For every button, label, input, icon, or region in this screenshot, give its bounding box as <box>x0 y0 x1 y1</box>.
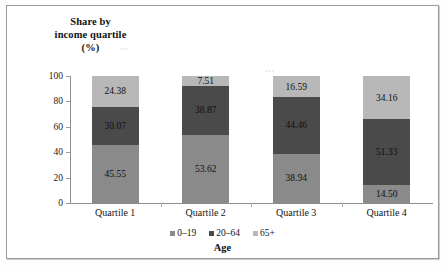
plot-area: 24.3830.0745.557.5138.8753.6216.5944.463… <box>70 76 432 203</box>
stacked-bar[interactable]: 24.3830.0745.55 <box>92 76 139 203</box>
bar-segment[interactable]: 24.38 <box>92 76 139 107</box>
legend-item-65plus[interactable]: 65+ <box>253 228 275 238</box>
legend-label: 0–19 <box>177 228 196 238</box>
y-axis-tick-label: 40 <box>29 148 63 157</box>
bar-segment-value-label: 30.07 <box>92 121 139 131</box>
scan-artifact: ••• <box>265 66 274 76</box>
bar-segment-value-label: 34.16 <box>363 93 410 103</box>
legend-swatch-icon <box>209 231 214 236</box>
legend-item-20-64[interactable]: 20–64 <box>209 228 240 238</box>
y-axis-tick-label: 80 <box>29 97 63 106</box>
bar-segment[interactable]: 38.87 <box>182 86 229 135</box>
legend-item-0-19[interactable]: 0–19 <box>170 228 196 238</box>
x-axis-category-label: Quartile 2 <box>161 207 251 219</box>
bar-segment-value-label: 53.62 <box>182 164 229 174</box>
bar-segment-value-label: 38.87 <box>182 105 229 115</box>
x-axis-category-label: Quartile 3 <box>251 207 341 219</box>
bar-segment[interactable]: 53.62 <box>182 135 229 203</box>
x-axis-category-label: Quartile 4 <box>342 207 432 219</box>
bar-segment[interactable]: 45.55 <box>92 145 139 203</box>
y-axis-tick-label: 0 <box>29 199 63 208</box>
bar-segment[interactable]: 51.33 <box>363 119 410 184</box>
x-axis-category-label: Quartile 1 <box>70 207 160 219</box>
legend-swatch-icon <box>253 231 258 236</box>
chart-title-line-3: (%) <box>23 41 158 54</box>
chart-frame: ••• ••• Share by income quartile (%) 100… <box>6 5 439 259</box>
bar-segment[interactable]: 34.16 <box>363 76 410 119</box>
stacked-bar[interactable]: 16.5944.4638.94 <box>273 76 320 203</box>
chart-title: Share by income quartile (%) <box>23 15 158 54</box>
chart-legend: 0–1920–6465+ <box>7 228 438 238</box>
legend-label: 20–64 <box>216 228 240 238</box>
bar-segment[interactable]: 14.50 <box>363 185 410 203</box>
stacked-bar[interactable]: 34.1651.3314.50 <box>363 76 410 203</box>
stacked-bar[interactable]: 7.5138.8753.62 <box>182 76 229 203</box>
x-axis-title: Age <box>7 242 438 253</box>
bar-segment[interactable]: 7.51 <box>182 76 229 86</box>
bar-segment[interactable]: 38.94 <box>273 154 320 203</box>
legend-label: 65+ <box>260 228 275 238</box>
bar-segment[interactable]: 30.07 <box>92 107 139 145</box>
scanned-page: ••• ••• Share by income quartile (%) 100… <box>0 0 448 270</box>
bar-segment-value-label: 7.51 <box>182 76 229 86</box>
bar-segment-value-label: 44.46 <box>273 120 320 130</box>
y-axis-labels: 100806040200 <box>25 76 63 204</box>
bar-segment-value-label: 24.38 <box>92 86 139 96</box>
chart-title-line-2: income quartile <box>23 28 158 41</box>
bar-segment-value-label: 16.59 <box>273 82 320 92</box>
chart-title-line-1: Share by <box>23 15 158 28</box>
y-axis-tick-label: 20 <box>29 173 63 182</box>
bar-segment[interactable]: 16.59 <box>273 76 320 97</box>
y-axis-tick-label: 100 <box>29 72 63 81</box>
bar-segment[interactable]: 44.46 <box>273 97 320 153</box>
bar-segment-value-label: 51.33 <box>363 147 410 157</box>
bar-segment-value-label: 38.94 <box>273 173 320 183</box>
bar-segment-value-label: 45.55 <box>92 169 139 179</box>
legend-swatch-icon <box>170 231 175 236</box>
y-axis-tick-label: 60 <box>29 122 63 131</box>
bar-segment-value-label: 14.50 <box>363 189 410 199</box>
